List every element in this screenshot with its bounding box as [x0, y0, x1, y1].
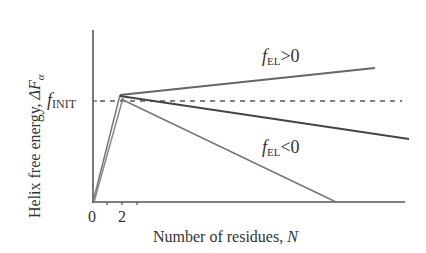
fel-negative-label: fEL<0	[262, 137, 300, 158]
fel-positive-label: fEL>0	[262, 46, 300, 67]
helix-energy-diagram: 0 2 Number of residues, N Helix free ene…	[0, 0, 426, 253]
fel-negative-shallow-line	[120, 96, 409, 139]
x-axis-label: Number of residues, N	[153, 228, 299, 245]
x-tick-label-2: 2	[118, 208, 126, 225]
diagram-svg: 0 2 Number of residues, N Helix free ene…	[0, 0, 426, 253]
rise-line-a	[93, 95, 120, 202]
rise-line-b	[94, 98, 123, 202]
x-tick-label-0: 0	[88, 208, 96, 225]
y-axis-label: Helix free energy, ΔFα	[26, 74, 46, 218]
fel-positive-line	[120, 68, 375, 95]
finit-label: fINIT	[47, 90, 77, 111]
fel-negative-steep-line	[121, 99, 336, 202]
